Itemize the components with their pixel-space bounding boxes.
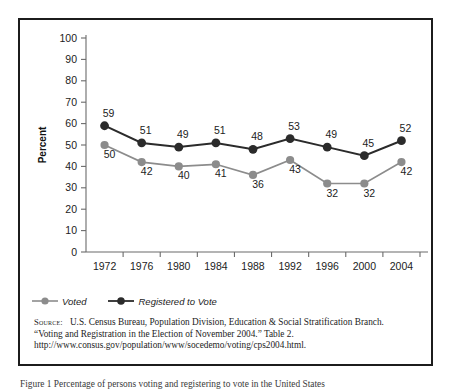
- data-label: 53: [288, 120, 300, 132]
- data-label: 51: [214, 124, 226, 136]
- legend-item-voted[interactable]: Voted: [32, 296, 86, 307]
- source-line-1: Source: U.S. Census Bureau, Population D…: [34, 317, 424, 329]
- data-point: [174, 143, 183, 152]
- data-label: 51: [140, 124, 152, 136]
- figure-box: 0102030405060708090100Percent19721976198…: [18, 18, 433, 366]
- y-axis-title: Percent: [37, 126, 48, 163]
- y-tick-label: 90: [65, 53, 77, 65]
- data-point: [100, 121, 109, 130]
- legend-marker-voted-icon: [32, 296, 58, 306]
- y-tick-label: 40: [65, 160, 77, 172]
- data-point: [397, 136, 406, 145]
- data-label: 49: [177, 128, 189, 140]
- y-tick-label: 10: [65, 224, 77, 236]
- data-label: 48: [251, 130, 263, 142]
- data-point: [211, 138, 220, 147]
- data-label: 45: [362, 137, 374, 149]
- legend-marker-registered-icon: [108, 296, 134, 306]
- y-tick-label: 70: [65, 96, 77, 108]
- source-text-1: U.S. Census Bureau, Population Division,…: [70, 317, 384, 327]
- chart-legend: Voted Registered to Vote: [32, 292, 217, 310]
- data-point: [286, 134, 295, 143]
- data-label: 50: [104, 148, 116, 160]
- y-tick-label: 60: [65, 117, 77, 129]
- source-text-2: “Voting and Registration in the Election…: [34, 329, 424, 341]
- legend-label-voted: Voted: [62, 296, 86, 307]
- data-label: 59: [103, 107, 115, 119]
- y-tick-label: 100: [59, 32, 77, 44]
- y-tick-label: 50: [65, 139, 77, 151]
- data-label: 43: [289, 163, 301, 175]
- y-tick-label: 80: [65, 74, 77, 86]
- x-tick-label: 1984: [204, 260, 228, 272]
- data-label: 41: [215, 167, 227, 179]
- figure-caption: Figure 1 Percentage of persons voting an…: [20, 378, 430, 390]
- legend-label-registered: Registered to Vote: [138, 296, 216, 307]
- x-tick-label: 1980: [167, 260, 191, 272]
- data-label: 40: [178, 169, 190, 181]
- data-point: [323, 143, 332, 152]
- x-tick-label: 2004: [390, 260, 414, 272]
- source-note: Source: U.S. Census Bureau, Population D…: [34, 317, 424, 352]
- data-label: 42: [401, 165, 413, 177]
- figure-caption-text: Figure 1 Percentage of persons voting an…: [20, 379, 325, 389]
- legend-item-registered[interactable]: Registered to Vote: [108, 296, 216, 307]
- data-label: 42: [141, 165, 153, 177]
- chart-plot-area: 0102030405060708090100Percent19721976198…: [20, 20, 431, 282]
- data-point: [249, 145, 258, 154]
- x-tick-label: 1972: [93, 260, 117, 272]
- data-label: 49: [325, 128, 337, 140]
- data-point: [137, 138, 146, 147]
- data-label: 32: [326, 187, 338, 199]
- data-label: 52: [400, 122, 412, 134]
- source-label: Source:: [34, 317, 63, 327]
- y-tick-label: 30: [65, 181, 77, 193]
- line-chart: 0102030405060708090100Percent19721976198…: [20, 20, 431, 282]
- x-tick-label: 1996: [316, 260, 340, 272]
- data-point: [360, 151, 369, 160]
- data-label: 36: [252, 178, 264, 190]
- x-tick-label: 2000: [353, 260, 377, 272]
- x-tick-label: 1988: [241, 260, 265, 272]
- source-url[interactable]: http://www.consus.gov/population/www/soc…: [34, 340, 424, 352]
- y-tick-label: 20: [65, 203, 77, 215]
- x-tick-label: 1992: [278, 260, 302, 272]
- data-label: 32: [363, 187, 375, 199]
- y-tick-label: 0: [71, 246, 77, 258]
- x-tick-label: 1976: [130, 260, 154, 272]
